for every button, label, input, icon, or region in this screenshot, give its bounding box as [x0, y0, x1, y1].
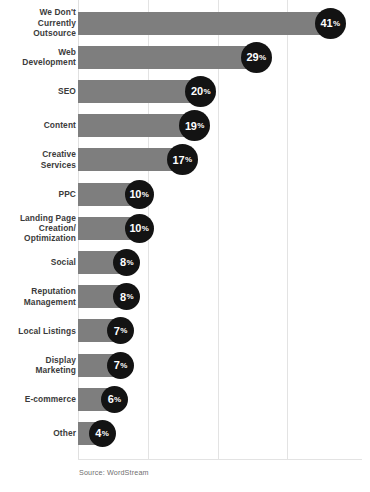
value-badge: 10%	[125, 214, 154, 243]
bar	[78, 80, 201, 103]
value-badge: 4%	[89, 420, 116, 447]
percent-sign: %	[126, 258, 133, 267]
bar-row: Web Development29%	[0, 40, 370, 74]
category-label: Display Marketing	[0, 355, 76, 376]
bar-row: We Don't Currently Outsource41%	[0, 6, 370, 40]
bar-container	[78, 40, 257, 74]
category-label: Content	[0, 120, 76, 130]
value-number: 7	[114, 325, 120, 337]
bar-row: Landing Page Creation/ Optimization10%	[0, 211, 370, 245]
value-number: 4	[95, 427, 101, 439]
category-label: Local Listings	[0, 326, 76, 336]
percent-sign: %	[126, 292, 133, 301]
value-number: 10	[129, 222, 141, 234]
value-number: 6	[108, 393, 114, 405]
source-note: Source: WordStream	[79, 468, 149, 477]
percent-sign: %	[203, 87, 210, 96]
value-badge: 8%	[113, 283, 140, 310]
percent-sign: %	[142, 190, 149, 199]
bar-row: Creative Services17%	[0, 143, 370, 177]
bar-container	[78, 109, 195, 143]
category-label: We Don't Currently Outsource	[0, 7, 76, 38]
value-number: 20	[191, 85, 203, 97]
category-label: SEO	[0, 86, 76, 96]
percent-sign: %	[185, 155, 192, 164]
bar-chart: We Don't Currently Outsource41%Web Devel…	[0, 0, 370, 492]
axis-bottom-line	[78, 459, 362, 460]
category-label: Social	[0, 257, 76, 267]
percent-sign: %	[120, 326, 127, 335]
bar-row: E-commerce6%	[0, 382, 370, 416]
category-label: Web Development	[0, 47, 76, 68]
bar	[78, 114, 195, 137]
value-badge: 10%	[125, 180, 154, 209]
percent-sign: %	[102, 429, 109, 438]
bar-row: PPC10%	[0, 177, 370, 211]
value-number: 8	[120, 291, 126, 303]
category-label: Creative Services	[0, 149, 76, 170]
value-badge: 7%	[107, 352, 134, 379]
percent-sign: %	[333, 19, 340, 28]
value-number: 19	[185, 120, 197, 132]
bar-row: Social8%	[0, 245, 370, 279]
bar-container	[78, 6, 331, 40]
bar-row: Reputation Management8%	[0, 280, 370, 314]
bar-row: Content19%	[0, 109, 370, 143]
bar-row: Other4%	[0, 416, 370, 450]
value-badge: 41%	[315, 8, 346, 39]
value-number: 29	[247, 51, 259, 63]
category-label: Landing Page Creation/ Optimization	[0, 213, 76, 244]
value-number: 17	[173, 154, 185, 166]
value-badge: 8%	[113, 249, 140, 276]
value-number: 8	[120, 256, 126, 268]
category-label: PPC	[0, 189, 76, 199]
percent-sign: %	[120, 361, 127, 370]
value-badge: 20%	[185, 76, 216, 107]
bar	[78, 12, 331, 35]
bar-row: Display Marketing7%	[0, 348, 370, 382]
bar-container	[78, 74, 201, 108]
value-number: 41	[321, 17, 333, 29]
value-badge: 17%	[167, 144, 198, 175]
category-label: E-commerce	[0, 394, 76, 404]
value-number: 10	[129, 188, 141, 200]
category-label: Reputation Management	[0, 286, 76, 307]
bar-row: Local Listings7%	[0, 314, 370, 348]
bar-row: SEO20%	[0, 74, 370, 108]
category-label: Other	[0, 428, 76, 438]
value-badge: 6%	[101, 386, 128, 413]
bar	[78, 46, 257, 69]
value-badge: 7%	[107, 317, 134, 344]
value-badge: 29%	[241, 42, 272, 73]
value-number: 7	[114, 359, 120, 371]
percent-sign: %	[142, 224, 149, 233]
value-badge: 19%	[179, 110, 210, 141]
percent-sign: %	[197, 121, 204, 130]
percent-sign: %	[114, 395, 121, 404]
percent-sign: %	[259, 53, 266, 62]
